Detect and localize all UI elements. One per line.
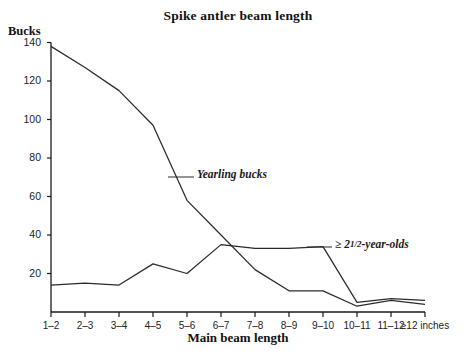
fraction-one-half: 1/2 [350,239,362,249]
annotation-leader-lines [168,177,332,247]
series-line-1 [51,245,425,303]
chart-figure: Spike antler beam length Bucks Main beam… [0,0,476,357]
annotation-older-bucks: ≥ 21/2-year-olds [335,238,409,250]
annotation-yearling-bucks: Yearling bucks [197,168,267,180]
